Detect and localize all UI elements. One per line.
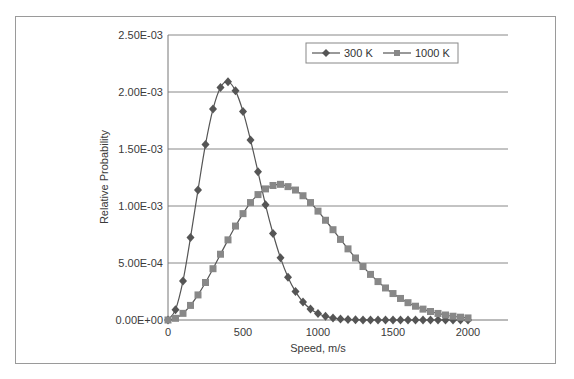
square-marker-icon — [180, 310, 187, 317]
diamond-marker-icon — [397, 316, 405, 325]
square-marker-icon — [375, 278, 382, 285]
square-marker-icon — [394, 50, 400, 56]
diamond-marker-icon — [202, 140, 210, 149]
square-marker-icon — [390, 290, 397, 297]
diamond-marker-icon — [224, 77, 232, 86]
square-marker-icon — [465, 314, 472, 321]
square-marker-icon — [352, 254, 359, 261]
diamond-marker-icon — [194, 186, 202, 195]
square-marker-icon — [187, 302, 194, 309]
y-tick-label: 1.50E-03 — [118, 143, 163, 155]
square-marker-icon — [195, 291, 202, 298]
x-tick-label: 0 — [165, 326, 171, 338]
diamond-marker-icon — [292, 287, 300, 296]
diamond-marker-icon — [329, 314, 337, 323]
diamond-marker-icon — [239, 107, 247, 116]
square-marker-icon — [307, 199, 314, 206]
square-marker-icon — [337, 236, 344, 243]
square-marker-icon — [217, 251, 224, 258]
x-axis-label: Speed, m/s — [290, 342, 346, 354]
square-marker-icon — [405, 299, 412, 306]
square-marker-icon — [232, 223, 239, 230]
diamond-marker-icon — [247, 135, 255, 144]
diamond-marker-icon — [307, 304, 315, 313]
square-marker-icon — [270, 182, 277, 189]
y-tick-label: 0.00E+00 — [116, 314, 163, 326]
x-tick-label: 2000 — [456, 326, 480, 338]
square-marker-icon — [442, 311, 449, 318]
diamond-marker-icon — [179, 276, 187, 285]
square-marker-icon — [255, 191, 262, 198]
square-marker-icon — [172, 315, 179, 322]
y-tick-label: 2.50E-03 — [118, 29, 163, 41]
x-tick-label: 1500 — [381, 326, 405, 338]
legend: 300 K 1000 K — [306, 43, 458, 63]
square-marker-icon — [285, 183, 292, 190]
diamond-marker-icon — [284, 273, 292, 282]
data-series — [164, 77, 472, 324]
series-300k — [164, 77, 472, 324]
diamond-marker-icon — [262, 200, 270, 209]
square-marker-icon — [360, 263, 367, 270]
square-marker-icon — [277, 181, 284, 188]
square-marker-icon — [367, 271, 374, 278]
square-marker-icon — [240, 210, 247, 217]
diamond-marker-icon — [404, 316, 412, 325]
y-tick-label: 5.00E-04 — [118, 257, 163, 269]
y-axis-label: Relative Probability — [98, 129, 110, 224]
diamond-marker-icon — [209, 105, 217, 114]
diamond-marker-icon — [172, 305, 180, 314]
square-marker-icon — [427, 308, 434, 315]
diamond-marker-icon — [277, 253, 285, 262]
square-marker-icon — [330, 226, 337, 233]
series-line — [168, 82, 468, 320]
y-tick-label: 2.00E-03 — [118, 86, 163, 98]
square-marker-icon — [202, 279, 209, 286]
diamond-marker-icon — [352, 315, 360, 324]
diamond-marker-icon — [344, 315, 352, 324]
square-marker-icon — [397, 295, 404, 302]
series-1000k — [165, 181, 472, 324]
y-tick-label: 1.00E-03 — [118, 200, 163, 212]
square-marker-icon — [247, 199, 254, 206]
square-marker-icon — [165, 317, 172, 324]
square-marker-icon — [345, 245, 352, 252]
square-marker-icon — [420, 306, 427, 313]
gridlines — [168, 35, 508, 320]
x-tick-label: 1000 — [306, 326, 330, 338]
diamond-marker-icon — [419, 316, 427, 325]
diamond-marker-icon — [427, 316, 435, 325]
diamond-marker-icon — [382, 316, 390, 325]
diamond-marker-icon — [412, 316, 420, 325]
x-tick-labels: 0500100015002000 — [165, 326, 480, 338]
diamond-marker-icon — [314, 309, 322, 318]
x-tick-label: 500 — [234, 326, 252, 338]
y-tick-labels: 0.00E+005.00E-041.00E-031.50E-032.00E-03… — [116, 29, 163, 326]
diamond-marker-icon — [374, 316, 382, 325]
square-marker-icon — [382, 284, 389, 291]
square-marker-icon — [457, 314, 464, 321]
square-marker-icon — [435, 310, 442, 317]
diamond-marker-icon — [367, 315, 375, 324]
square-marker-icon — [450, 313, 457, 320]
square-marker-icon — [300, 192, 307, 199]
square-marker-icon — [412, 303, 419, 310]
diamond-marker-icon — [337, 314, 345, 323]
square-marker-icon — [225, 236, 232, 243]
square-marker-icon — [322, 217, 329, 224]
series-line — [168, 184, 468, 320]
diamond-marker-icon — [269, 229, 277, 238]
legend-label-300k: 300 K — [344, 47, 373, 59]
square-marker-icon — [262, 185, 269, 192]
diamond-marker-icon — [389, 316, 397, 325]
square-marker-icon — [292, 187, 299, 194]
chart: 0.00E+005.00E-041.00E-031.50E-032.00E-03… — [0, 0, 574, 379]
square-marker-icon — [315, 208, 322, 215]
diamond-marker-icon — [232, 86, 240, 95]
diamond-marker-icon — [187, 233, 195, 242]
square-marker-icon — [210, 265, 217, 272]
legend-label-1000k: 1000 K — [415, 47, 451, 59]
diamond-marker-icon — [359, 315, 367, 324]
diamond-marker-icon — [254, 167, 262, 176]
